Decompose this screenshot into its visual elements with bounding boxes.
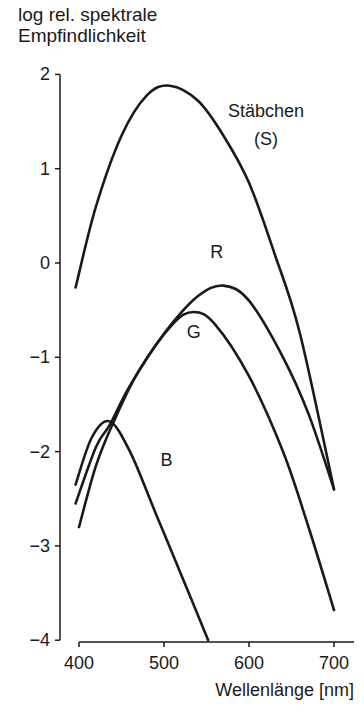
y-tick-label: −1 [29,347,50,367]
curve-st-bchen-s [76,86,334,490]
x-tick-label: 500 [149,653,179,673]
y-tick-label: −4 [29,630,50,650]
y-tick-label: 0 [40,253,50,273]
curve-b [76,421,209,640]
x-tick-label: 600 [234,653,264,673]
y-tick-label: −3 [29,536,50,556]
y-tick-label: 1 [40,159,50,179]
x-tick-label: 400 [64,653,94,673]
curve-label: Stäbchen [228,101,304,121]
curve-labels: Stäbchen(S)RGB [161,101,304,470]
chart-plot: 210−1−2−3−4400500600700 Stäbchen(S)RGB [0,0,364,718]
curve-label: (S) [254,129,278,149]
curve-g [79,312,334,610]
y-tick-label: −2 [29,442,50,462]
y-tick-label: 2 [40,64,50,84]
curve-label: B [161,450,173,470]
curves [76,86,334,641]
curve-label: G [187,322,201,342]
curve-label: R [210,242,223,262]
axes: 210−1−2−3−4400500600700 [29,64,354,673]
x-tick-label: 700 [319,653,349,673]
x-axis-label: Wellenlänge [nm] [215,680,354,701]
